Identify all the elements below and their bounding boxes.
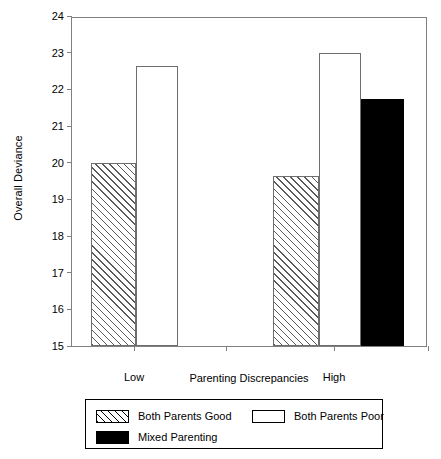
legend-label: Both Parents Poor bbox=[294, 410, 384, 422]
legend-item: Mixed Parenting bbox=[96, 428, 218, 446]
x-tick-mark bbox=[226, 346, 227, 351]
bar bbox=[361, 99, 404, 347]
y-tick-label: 19 bbox=[52, 191, 64, 207]
bar bbox=[91, 163, 136, 346]
y-tick-mark bbox=[67, 236, 72, 237]
bar-chart-figure: Overall Deviance 15161718192021222324Low… bbox=[0, 0, 441, 459]
y-tick-mark bbox=[67, 52, 72, 53]
legend-item: Both Parents Good bbox=[96, 407, 232, 425]
legend-swatch-icon bbox=[96, 410, 129, 423]
y-tick-label: 18 bbox=[52, 228, 64, 244]
bar bbox=[136, 66, 178, 347]
chart-legend: Both Parents GoodBoth Parents PoorMixed … bbox=[85, 399, 383, 449]
x-tick-mark bbox=[134, 346, 135, 351]
y-tick-mark bbox=[67, 162, 72, 163]
x-tick-mark bbox=[428, 346, 429, 351]
y-tick-label: 23 bbox=[52, 45, 64, 61]
y-tick-label: 24 bbox=[52, 8, 64, 24]
legend-row: Mixed Parenting bbox=[86, 428, 382, 446]
y-axis-title: Overall Deviance bbox=[12, 98, 24, 258]
y-tick-mark bbox=[67, 346, 72, 347]
legend-swatch-icon bbox=[96, 431, 129, 444]
y-tick-label: 21 bbox=[52, 118, 64, 134]
y-tick-mark bbox=[67, 126, 72, 127]
bar bbox=[273, 176, 319, 347]
legend-label: Both Parents Good bbox=[138, 410, 232, 422]
y-tick-mark bbox=[67, 272, 72, 273]
plot-area: 15161718192021222324LowHigh bbox=[71, 17, 427, 347]
y-tick-mark bbox=[67, 309, 72, 310]
legend-swatch-icon bbox=[252, 410, 285, 423]
legend-label: Mixed Parenting bbox=[138, 431, 218, 443]
x-axis-title: Parenting Discrepancies bbox=[71, 372, 427, 384]
y-tick-mark bbox=[67, 199, 72, 200]
y-tick-label: 17 bbox=[52, 265, 64, 281]
y-tick-mark bbox=[67, 16, 72, 17]
y-tick-label: 15 bbox=[52, 338, 64, 354]
legend-row: Both Parents GoodBoth Parents Poor bbox=[86, 407, 382, 425]
legend-item: Both Parents Poor bbox=[252, 407, 384, 425]
y-tick-label: 16 bbox=[52, 301, 64, 317]
bar bbox=[319, 53, 361, 346]
x-tick-mark bbox=[334, 346, 335, 351]
y-tick-mark bbox=[67, 89, 72, 90]
y-tick-label: 22 bbox=[52, 81, 64, 97]
y-tick-label: 20 bbox=[52, 155, 64, 171]
